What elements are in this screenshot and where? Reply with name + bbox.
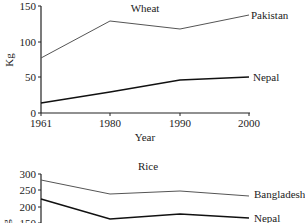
wheat-ytick: 50 <box>25 71 37 83</box>
wheat-chart: Wheat 150 100 50 0 1961 1980 1990 2000 Y… <box>3 0 289 143</box>
rice-chart: Rice 300 250 200 150 Kg Bangladesh Nepal <box>0 160 305 223</box>
rice-legend-nepal: Nepal <box>254 212 280 223</box>
wheat-series-nepal <box>41 77 249 103</box>
rice-ytick: 300 <box>20 168 37 180</box>
chart-canvas: Wheat 150 100 50 0 1961 1980 1990 2000 Y… <box>0 0 305 223</box>
rice-ytick: 250 <box>20 184 37 196</box>
wheat-ytick: 150 <box>20 0 37 12</box>
rice-title: Rice <box>138 160 158 172</box>
rice-legend-bangladesh: Bangladesh <box>254 188 305 200</box>
wheat-series-pakistan <box>41 15 249 58</box>
wheat-xtick: 2000 <box>238 117 261 129</box>
wheat-xtick: 1961 <box>30 117 52 129</box>
rice-series-bangladesh <box>41 180 249 196</box>
wheat-legend-pakistan: Pakistan <box>251 9 289 21</box>
wheat-xtick: 1980 <box>99 117 122 129</box>
wheat-legend-nepal: Nepal <box>253 71 279 83</box>
wheat-ytick: 100 <box>20 36 37 48</box>
rice-ylabel: Kg <box>0 219 12 223</box>
wheat-title: Wheat <box>131 2 160 14</box>
wheat-xlabel: Year <box>135 131 156 143</box>
rice-ytick: 200 <box>20 201 37 213</box>
wheat-xtick: 1990 <box>169 117 192 129</box>
wheat-ylabel: Kg <box>3 53 15 67</box>
rice-series-nepal <box>41 199 249 219</box>
rice-ytick: 150 <box>20 217 37 223</box>
